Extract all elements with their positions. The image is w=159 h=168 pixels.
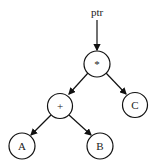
node-plus: + — [48, 94, 73, 119]
edge-plus-b — [69, 115, 91, 135]
node-b: B — [87, 133, 113, 159]
node-a-label: A — [18, 140, 26, 152]
node-c-label: C — [131, 99, 138, 111]
node-plus-label: + — [57, 100, 63, 112]
node-root-label: * — [94, 58, 100, 70]
edge-plus-a — [31, 115, 51, 135]
node-b-label: B — [96, 140, 103, 152]
node-c: C — [123, 93, 148, 118]
edge-root-plus — [69, 73, 88, 94]
node-a: A — [9, 133, 35, 159]
expression-tree-diagram: ptr * + C A B — [0, 0, 159, 168]
node-root: * — [84, 51, 110, 77]
pointer-label: ptr — [91, 6, 104, 18]
edge-root-c — [106, 73, 126, 94]
